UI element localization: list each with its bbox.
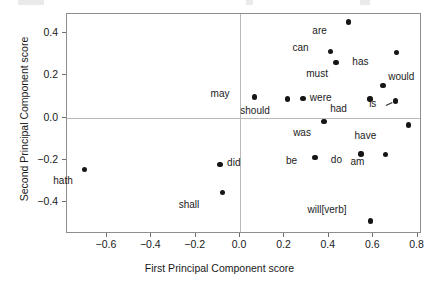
scatter-point xyxy=(333,60,338,65)
point-label: have xyxy=(355,131,377,141)
y-tick-mark xyxy=(62,74,66,75)
x-tick-label: 0.6 xyxy=(365,239,380,250)
x-tick-mark xyxy=(328,233,329,237)
truncated-caption-artifact-left xyxy=(18,0,44,5)
point-label: will[verb] xyxy=(308,205,347,215)
label-leader-line xyxy=(386,102,393,106)
scatter-point xyxy=(321,119,326,124)
y-tick-label: 0.2 xyxy=(43,69,58,80)
x-axis-title: First Principal Component score xyxy=(0,262,439,274)
point-label: hath xyxy=(53,176,72,186)
scatter-point xyxy=(82,167,87,172)
scatter-point xyxy=(217,162,222,167)
point-label: would xyxy=(388,72,414,82)
x-tick-mark xyxy=(106,233,107,237)
y-tick-mark xyxy=(62,117,66,118)
scatter-point xyxy=(346,19,351,24)
scatter-point xyxy=(393,98,398,103)
scatter-point xyxy=(300,96,305,101)
y-tick-label: 0.0 xyxy=(43,111,58,122)
point-label: were xyxy=(310,93,332,103)
y-tick-label: −0.2 xyxy=(37,153,58,164)
y-tick-mark xyxy=(62,201,66,202)
point-label: do xyxy=(331,155,342,165)
x-tick-mark xyxy=(195,233,196,237)
point-label: am xyxy=(350,157,364,167)
point-label: shall xyxy=(179,200,200,210)
x-tick-label: 0.2 xyxy=(276,239,291,250)
scatter-point xyxy=(368,218,373,223)
point-label: is xyxy=(369,99,376,109)
scatter-point xyxy=(406,122,411,127)
point-label: should xyxy=(240,106,269,116)
point-label: may xyxy=(211,89,230,99)
x-tick-label: 0.4 xyxy=(321,239,336,250)
zero-line-vertical xyxy=(240,14,241,232)
scatter-point xyxy=(383,152,388,157)
x-tick-label: −0.6 xyxy=(96,239,117,250)
x-tick-label: −0.4 xyxy=(140,239,161,250)
pca-scatter-figure: hathdidshallmayshouldwerebewascanmustare… xyxy=(0,0,439,287)
truncated-caption-artifact-right xyxy=(360,0,370,5)
point-label: did xyxy=(227,158,240,168)
point-label: be xyxy=(286,156,297,166)
x-tick-mark xyxy=(372,233,373,237)
point-label: was xyxy=(293,128,311,138)
x-tick-mark xyxy=(417,233,418,237)
y-tick-mark xyxy=(62,159,66,160)
scatter-point xyxy=(328,49,333,54)
point-label: has xyxy=(352,57,368,67)
point-label: can xyxy=(292,43,308,53)
scatter-point xyxy=(252,94,257,99)
x-tick-mark xyxy=(283,233,284,237)
y-tick-label: −0.4 xyxy=(37,196,58,207)
x-tick-label: 0.8 xyxy=(409,239,424,250)
x-tick-label: 0.0 xyxy=(232,239,247,250)
y-tick-mark xyxy=(62,32,66,33)
scatter-point xyxy=(394,50,399,55)
x-tick-mark xyxy=(150,233,151,237)
scatter-point xyxy=(220,190,225,195)
scatter-point xyxy=(312,155,317,160)
point-label: had xyxy=(330,104,347,114)
plot-area: hathdidshallmayshouldwerebewascanmustare… xyxy=(66,13,421,233)
x-tick-label: −0.2 xyxy=(184,239,205,250)
zero-line-horizontal xyxy=(67,118,420,119)
scatter-point xyxy=(285,96,290,101)
x-tick-mark xyxy=(239,233,240,237)
point-label: must xyxy=(306,69,328,79)
y-axis-title: Second Principal Component score xyxy=(18,9,30,229)
truncated-caption-artifact-middle xyxy=(246,0,253,5)
scatter-point xyxy=(380,83,385,88)
y-tick-label: 0.4 xyxy=(43,27,58,38)
point-label: are xyxy=(312,26,326,36)
